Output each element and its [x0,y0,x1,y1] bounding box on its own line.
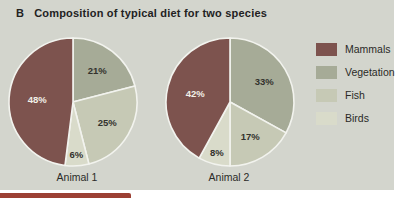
legend-swatch-birds [316,112,337,125]
legend-label-birds: Birds [345,112,369,125]
slice-percent-label: 21% [88,65,108,76]
next-section-band [0,193,131,198]
slice-percent-label: 48% [28,94,48,105]
legend-label-fish: Fish [345,89,365,102]
figure-title: Composition of typical diet for two spec… [34,7,267,19]
legend: Mammals Vegetation Fish Birds [316,43,395,125]
legend-label-mammals: Mammals [345,43,391,56]
slice-percent-label: 33% [255,76,275,87]
legend-item-fish: Fish [316,89,395,102]
pie-chart-animal-2: 33%17%8%42% [163,35,297,169]
legend-item-birds: Birds [316,112,395,125]
slice-percent-label: 6% [69,149,83,160]
legend-swatch-vegetation [316,66,337,79]
slice-percent-label: 17% [241,131,261,142]
legend-item-mammals: Mammals [316,43,395,56]
pie-title-animal-1: Animal 1 [17,171,137,183]
pie-title-animal-2: Animal 2 [169,171,289,183]
legend-swatch-fish [316,89,337,102]
chart-panel: B Composition of typical diet for two sp… [0,0,394,190]
pie-chart-animal-1: 21%25%6%48% [6,35,140,169]
slice-percent-label: 8% [210,147,224,158]
figure-title-row: B Composition of typical diet for two sp… [16,7,267,19]
slice-percent-label: 42% [186,88,206,99]
legend-swatch-mammals [316,43,337,56]
legend-item-vegetation: Vegetation [316,66,395,79]
legend-label-vegetation: Vegetation [345,66,395,79]
section-letter: B [16,7,24,19]
slice-percent-label: 25% [98,117,118,128]
